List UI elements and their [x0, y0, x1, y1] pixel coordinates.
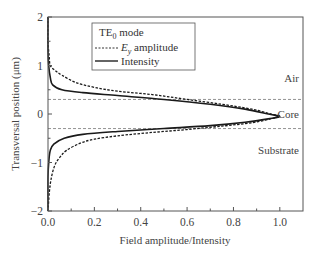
x-axis-label: Field amplitude/Intensity — [120, 234, 231, 246]
x-tick-label: 0.8 — [226, 216, 241, 228]
y-axis-label: Transversal position (μm) — [9, 57, 22, 171]
legend-entry-intensity: Intensity — [121, 55, 160, 67]
x-tick-label: 0.2 — [87, 216, 102, 228]
y-tick-label: 1 — [37, 60, 43, 72]
x-tick-label: 0.0 — [41, 216, 56, 228]
y-tick-label: 0 — [37, 108, 43, 120]
x-tick-label: 0.4 — [134, 216, 149, 228]
x-tick-label: 0.6 — [180, 216, 195, 228]
y-axis-ticks: 210−1−2 — [31, 11, 52, 217]
x-axis-ticks: 0.00.20.40.60.81.0 — [41, 207, 287, 228]
region-label-core: Core — [278, 108, 300, 120]
region-labels: AirCoreSubstrate — [258, 72, 299, 157]
legend: TE0 mode Ey amplitude Intensity — [92, 23, 195, 70]
x-tick-label: 1.0 — [273, 216, 288, 228]
y-tick-label: −1 — [31, 157, 43, 169]
chart: 0.00.20.40.60.81.0 210−1−2 AirCoreSubstr… — [0, 0, 315, 258]
region-label-air: Air — [284, 72, 299, 84]
region-label-substrate: Substrate — [258, 144, 299, 156]
y-tick-label: 2 — [37, 11, 43, 23]
y-tick-label: −2 — [31, 205, 43, 217]
